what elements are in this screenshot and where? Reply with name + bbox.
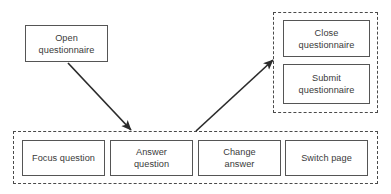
node-switch-page[interactable]: Switch page xyxy=(285,140,368,176)
node-change-answer-label: Change answer xyxy=(223,146,255,170)
node-open-questionnaire-label: Open questionnaire xyxy=(39,32,95,56)
arrow-answering-to-closing xyxy=(196,60,273,131)
node-submit-questionnaire-label: Submit questionnaire xyxy=(299,72,355,96)
arrow-open-to-answering xyxy=(68,63,131,130)
node-focus-question-label: Focus question xyxy=(32,152,95,164)
node-answer-question[interactable]: Answer question xyxy=(110,140,193,176)
node-close-questionnaire-label: Close questionnaire xyxy=(299,27,355,51)
diagram-canvas: Open questionnaire Close questionnaire S… xyxy=(0,0,391,194)
node-switch-page-label: Switch page xyxy=(301,152,352,164)
node-open-questionnaire[interactable]: Open questionnaire xyxy=(25,25,108,62)
node-submit-questionnaire[interactable]: Submit questionnaire xyxy=(283,64,370,104)
node-focus-question[interactable]: Focus question xyxy=(22,140,105,176)
node-change-answer[interactable]: Change answer xyxy=(198,140,281,176)
node-close-questionnaire[interactable]: Close questionnaire xyxy=(283,20,370,57)
node-answer-question-label: Answer question xyxy=(134,146,169,170)
